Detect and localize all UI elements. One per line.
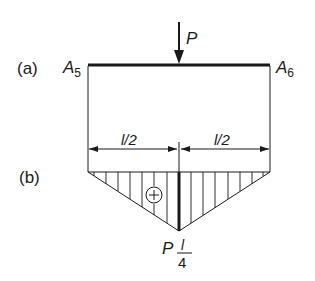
dimension-right-label: l/2	[214, 131, 231, 148]
part-a-label: (a)	[17, 59, 38, 78]
beam-moment-diagram: (a) A5 A6 P l/2 l/2 (b)	[0, 0, 315, 281]
part-b-label: (b)	[19, 168, 40, 187]
support-a6-label: A6	[275, 58, 294, 80]
dimension-left-label: l/2	[121, 131, 138, 148]
load-label: P	[186, 29, 198, 48]
moment-diagram	[88, 172, 270, 231]
load-arrow-icon	[174, 22, 184, 64]
peak-value-label: P l 4	[162, 237, 192, 271]
svg-text:4: 4	[178, 254, 186, 271]
positive-sign-icon	[146, 187, 162, 203]
support-a5-label: A5	[62, 58, 81, 80]
svg-text:l: l	[181, 237, 185, 253]
svg-text:P: P	[162, 239, 174, 258]
